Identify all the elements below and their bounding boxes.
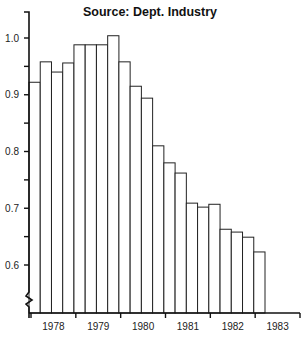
x-year-label: 1981 xyxy=(177,321,200,332)
bar-1982-q4 xyxy=(243,237,254,313)
x-year-label: 1978 xyxy=(42,321,65,332)
bar-1981-q1 xyxy=(164,163,175,313)
y-tick-label: 0.6 xyxy=(5,260,19,271)
bar-1981-q2 xyxy=(175,173,186,313)
bar-1980-q2 xyxy=(130,86,141,313)
bar-1980-q4 xyxy=(153,146,164,313)
x-year-label: 1983 xyxy=(266,321,289,332)
x-axis: 197819791980198119821983 xyxy=(29,313,300,332)
bar-1982-q1 xyxy=(209,204,220,313)
x-year-label: 1980 xyxy=(132,321,155,332)
y-tick-label: 0.9 xyxy=(5,89,19,100)
bar-1983-q1 xyxy=(254,252,265,313)
y-axis: 1.00.90.80.70.6 xyxy=(5,12,32,318)
y-tick-label: 0.7 xyxy=(5,203,19,214)
bar-1981-q3 xyxy=(186,203,197,313)
chart-title: Source: Dept. Industry xyxy=(83,5,217,19)
bar-1978-q4 xyxy=(63,63,74,313)
bar-1982-q2 xyxy=(220,229,231,313)
bar-1979-q1 xyxy=(74,45,85,313)
bar-1980-q3 xyxy=(141,98,152,313)
bar-1978-q2 xyxy=(40,62,51,313)
bar-1978-q3 xyxy=(51,72,62,313)
x-year-label: 1979 xyxy=(87,321,110,332)
bar-1981-q4 xyxy=(198,207,209,313)
bar-1982-q3 xyxy=(231,232,242,313)
bar-1978-q1 xyxy=(29,82,40,313)
bar-1979-q3 xyxy=(96,45,107,313)
bar-1979-q2 xyxy=(85,45,96,313)
y-tick-label: 0.8 xyxy=(5,146,19,157)
bar-1979-q4 xyxy=(108,36,119,313)
bar-chart: Source: Dept. Industry 1.00.90.80.70.6 1… xyxy=(0,0,305,342)
bar-1980-q1 xyxy=(119,62,130,313)
x-year-label: 1982 xyxy=(222,321,245,332)
y-tick-label: 1.0 xyxy=(5,33,19,44)
bars-group xyxy=(29,36,265,313)
